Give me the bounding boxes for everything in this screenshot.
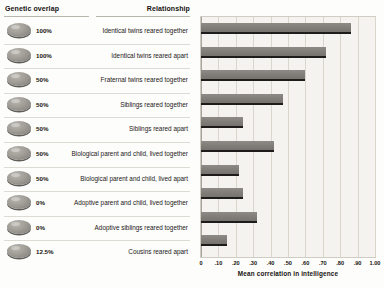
row-separator: [4, 240, 190, 241]
row-separator: [4, 167, 190, 168]
table-row: 50%Siblings reared together: [0, 93, 192, 118]
genetic-overlap-disc-icon: [7, 23, 31, 39]
bar-row: [201, 43, 379, 67]
table-row: 50%Siblings reared apart: [0, 117, 192, 142]
x-axis-tick: .20: [232, 260, 240, 266]
column-header-relationship: Relationship: [112, 5, 190, 12]
bar: [201, 47, 326, 56]
bar: [201, 188, 243, 197]
relationship-label: Adoptive siblings reared together: [60, 224, 188, 231]
table-row: 12.5%Cousins reared apart: [0, 240, 192, 265]
bar-row: [201, 231, 379, 255]
table-row: 50%Biological parent and child, lived to…: [0, 142, 192, 167]
x-axis-tick: .80: [336, 260, 344, 266]
genetic-overlap-value: 0%: [36, 199, 45, 206]
relationship-label: Fraternal twins reared together: [60, 76, 188, 83]
bar-row: [201, 184, 379, 208]
row-separator: [4, 142, 190, 143]
bar: [201, 235, 227, 244]
x-axis-tick: 1.00: [370, 260, 381, 266]
header-divider-relationship: [96, 16, 190, 17]
genetic-overlap-disc-icon: [7, 171, 31, 187]
genetic-overlap-disc-icon: [7, 97, 31, 113]
bar: [201, 70, 305, 79]
row-separator: [4, 44, 190, 45]
bar-series: [201, 19, 379, 255]
x-axis-tick: .30: [249, 260, 257, 266]
genetic-overlap-value: 100%: [36, 52, 52, 59]
header-divider-genetic: [4, 16, 89, 17]
genetic-overlap-value: 0%: [36, 224, 45, 231]
relationship-table: 100%Identical twins reared together100%I…: [0, 19, 192, 265]
x-axis-tick: .10: [215, 260, 223, 266]
genetic-overlap-value: 50%: [36, 101, 48, 108]
genetic-overlap-value: 100%: [36, 27, 52, 34]
bar-row: [201, 66, 379, 90]
bar: [201, 23, 351, 32]
x-axis-tick: .40: [267, 260, 275, 266]
genetic-overlap-value: 50%: [36, 150, 48, 157]
genetic-overlap-disc-icon: [7, 72, 31, 88]
x-axis-tick: .60: [302, 260, 310, 266]
genetic-overlap-disc-icon: [7, 121, 31, 137]
x-axis-tick: 0: [199, 260, 202, 266]
relationship-label: Biological parent and child, lived apart: [60, 175, 188, 182]
relationship-label: Biological parent and child, lived toget…: [60, 150, 188, 157]
x-axis-tick-labels: 0.10.20.30.40.50.60.70.80.901.00: [197, 260, 379, 270]
relationship-label: Identical twins reared together: [60, 27, 188, 34]
x-axis-tick: .70: [319, 260, 327, 266]
row-separator: [4, 191, 190, 192]
bar: [201, 165, 239, 174]
genetic-overlap-disc-icon: [7, 244, 31, 260]
bar: [201, 94, 283, 103]
genetic-overlap-value: 12.5%: [36, 248, 54, 255]
genetic-overlap-disc-icon: [7, 48, 31, 64]
row-separator: [4, 117, 190, 118]
row-separator: [4, 216, 190, 217]
row-separator: [4, 68, 190, 69]
bar: [201, 212, 257, 221]
bar-row: [201, 90, 379, 114]
genetic-overlap-disc-icon: [7, 146, 31, 162]
bar-row: [201, 19, 379, 43]
bar-chart: 0.10.20.30.40.50.60.70.80.901.00 Mean co…: [197, 16, 379, 258]
x-axis-tick: .50: [284, 260, 292, 266]
relationship-label: Adoptive parent and child, lived togethe…: [60, 199, 188, 206]
genetic-overlap-value: 50%: [36, 125, 48, 132]
genetic-overlap-value: 50%: [36, 175, 48, 182]
genetic-overlap-value: 50%: [36, 76, 48, 83]
row-separator: [4, 93, 190, 94]
relationship-label: Siblings reared apart: [60, 125, 188, 132]
chart-page: Genetic overlap Relationship 100%Identic…: [0, 0, 384, 288]
relationship-label: Cousins reared apart: [60, 248, 188, 255]
table-row: 0%Adoptive siblings reared together: [0, 216, 192, 241]
bar-row: [201, 161, 379, 185]
x-axis-title: Mean correlation in intelligence: [197, 270, 379, 277]
table-row: 50%Fraternal twins reared together: [0, 68, 192, 93]
relationship-label: Identical twins reared apart: [60, 52, 188, 59]
x-axis-tick: .90: [354, 260, 362, 266]
table-row: 0%Adoptive parent and child, lived toget…: [0, 191, 192, 216]
table-row: 50%Biological parent and child, lived ap…: [0, 167, 192, 192]
bar-row: [201, 137, 379, 161]
bar-row: [201, 113, 379, 137]
column-header-genetic-overlap: Genetic overlap: [5, 5, 59, 12]
table-row: 100%Identical twins reared together: [0, 19, 192, 44]
relationship-label: Siblings reared together: [60, 101, 188, 108]
genetic-overlap-disc-icon: [7, 195, 31, 211]
bar: [201, 117, 243, 126]
bar: [201, 141, 274, 150]
bar-row: [201, 208, 379, 232]
genetic-overlap-disc-icon: [7, 220, 31, 236]
table-row: 100%Identical twins reared apart: [0, 44, 192, 69]
